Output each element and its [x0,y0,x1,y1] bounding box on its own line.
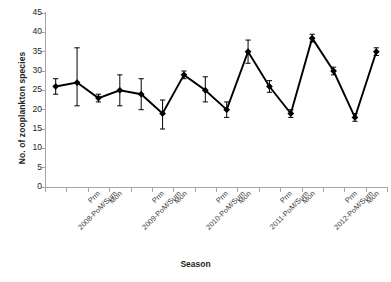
x-axis-title: Season [0,259,391,269]
error-bar [74,48,79,106]
data-point-marker [52,83,59,90]
zooplankton-species-chart: No. of zooplankton species 0510152025303… [0,0,391,282]
data-point-marker [352,114,359,121]
y-tick-label: 25 [33,84,42,94]
y-tick-label: 0 [37,181,42,191]
y-tick-label: 15 [33,123,42,133]
plot-area: 051015202530354045 [45,13,387,187]
data-point-marker [116,87,123,94]
y-axis-title: No. of zooplankton species [17,28,27,188]
data-series [45,13,387,187]
x-axis-tick-labels: 2008-PoM/SumPrmMon2009-PoM/SumPrmMon2010… [45,189,387,255]
y-tick-label: 10 [33,142,42,152]
y-tick-label: 45 [33,7,42,17]
y-tick-label: 35 [33,46,42,56]
y-tick-label: 30 [33,65,42,75]
y-tick-label: 20 [33,104,42,114]
series-line [56,38,377,117]
x-tick-mark [387,187,388,192]
y-tick-label: 40 [33,26,42,36]
data-point-marker [373,48,380,55]
y-tick-label: 5 [37,162,42,172]
